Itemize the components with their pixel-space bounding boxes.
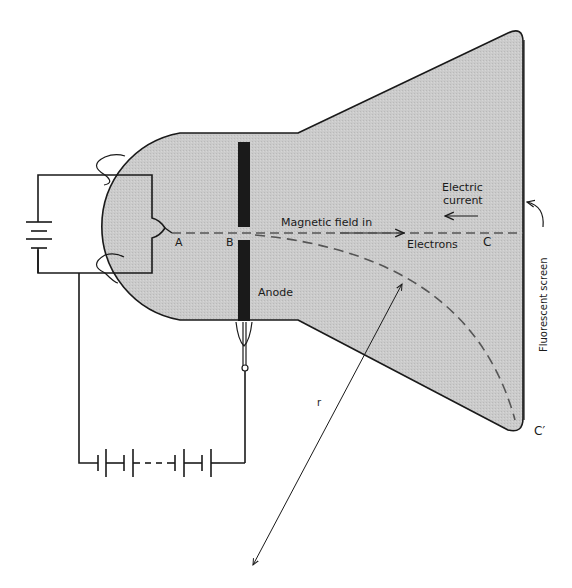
label-anode: Anode bbox=[258, 287, 293, 299]
anode-terminal bbox=[242, 365, 248, 371]
screen-pointer-arrow bbox=[527, 202, 543, 227]
hv-battery-series-icon bbox=[98, 449, 220, 477]
label-point-b: B bbox=[226, 237, 234, 249]
heater-battery-icon bbox=[26, 195, 52, 273]
label-radius: r bbox=[317, 397, 321, 409]
label-magnetic-field: Magnetic field in bbox=[281, 217, 372, 229]
label-electric-current-line1: Electric bbox=[442, 182, 483, 194]
crt-diagram: A B Magnetic field in Electrons C C′ Ele… bbox=[0, 0, 572, 588]
label-fluorescent-screen: Fluorescent screen bbox=[538, 257, 550, 352]
label-point-c: C bbox=[483, 236, 491, 248]
tube-body bbox=[102, 31, 523, 431]
label-point-c-prime: C′ bbox=[534, 425, 545, 437]
anode-lower-plate bbox=[238, 240, 250, 321]
anode-upper-plate bbox=[238, 142, 250, 227]
label-electrons: Electrons bbox=[407, 239, 458, 251]
label-electric-current-line2: current bbox=[443, 195, 483, 207]
anode-seal bbox=[236, 322, 252, 346]
label-point-a: A bbox=[175, 237, 183, 249]
